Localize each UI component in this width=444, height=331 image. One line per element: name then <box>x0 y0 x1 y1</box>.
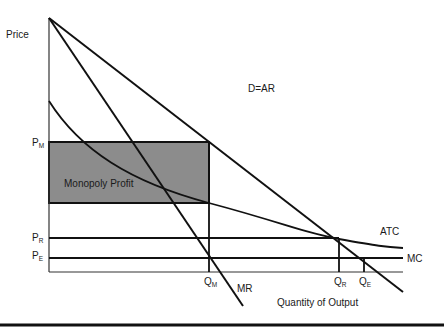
quantity-label-qm: QM <box>204 276 217 288</box>
monopoly-profit-label: Monopoly Profit <box>64 178 134 189</box>
quantity-label-qr: QR <box>334 276 347 288</box>
quantity-label-qe: QE <box>359 276 372 288</box>
demand-label: D=AR <box>248 83 275 94</box>
price-label-pr: PR <box>32 232 44 244</box>
monopoly-diagram: Price D=AR Monopoly Profit ATC MC MR Qua… <box>0 0 444 331</box>
mc-label: MC <box>407 253 423 264</box>
price-label-pm: PM <box>32 137 44 149</box>
x-axis-label: Quantity of Output <box>277 297 358 308</box>
y-axis-label: Price <box>6 29 29 40</box>
mr-label: MR <box>237 283 253 294</box>
atc-label: ATC <box>380 226 399 237</box>
price-label-pe: PE <box>32 250 44 262</box>
